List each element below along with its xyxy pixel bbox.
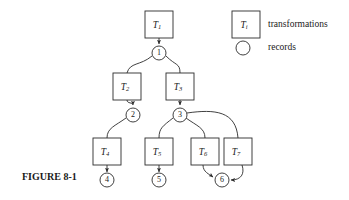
transformation-flow-diagram: T1 T2 T3 T4 T5: [0, 0, 349, 200]
legend-record-text: records: [268, 42, 296, 52]
record-node-3[interactable]: 3: [173, 108, 187, 122]
record-node-2[interactable]: 2: [126, 108, 140, 122]
legend-box-sublabel: i: [246, 24, 248, 31]
record-4-label: 4: [105, 175, 109, 184]
transformation-node-t7[interactable]: T7: [224, 138, 252, 165]
figure-caption: FIGURE 8-1: [22, 171, 77, 182]
record-3-label: 3: [178, 110, 182, 119]
record-2-label: 2: [131, 110, 135, 119]
transformation-node-t3[interactable]: T3: [166, 73, 194, 100]
edge-r1-to-t3: [166, 56, 180, 73]
edge-t6-to-r6: [203, 165, 213, 177]
transformation-node-t1[interactable]: T1: [145, 11, 173, 38]
t1-sublabel: 1: [158, 24, 161, 31]
record-6-label: 6: [220, 175, 224, 184]
record-node-1[interactable]: 1: [152, 46, 166, 60]
edge-r3-to-t6: [186, 118, 205, 138]
record-node-6[interactable]: 6: [215, 173, 229, 187]
edge-t2-to-r2: [127, 100, 133, 105]
t3-sublabel: 3: [178, 86, 183, 93]
edge-r3-to-t7: [187, 111, 238, 138]
transformation-node-t2[interactable]: T2: [113, 73, 141, 100]
legend-transformation-symbol: Ti: [232, 11, 260, 38]
edge-r1-to-t2: [127, 56, 152, 73]
edge-r2-to-t4: [107, 118, 126, 138]
record-node-5[interactable]: 5: [152, 173, 166, 187]
legend-transformation-text: transformations: [268, 19, 328, 29]
transformation-node-t4[interactable]: T4: [93, 138, 121, 165]
edges-group: [107, 38, 243, 180]
legend: Ti transformations records: [232, 11, 328, 55]
edge-t7-to-r6: [231, 165, 243, 180]
transformation-node-t6[interactable]: T6: [191, 138, 219, 165]
edge-r3-to-t5: [159, 118, 173, 138]
record-1-label: 1: [157, 48, 161, 57]
legend-record-symbol: [236, 41, 250, 55]
record-5-label: 5: [157, 175, 161, 184]
figure-container: T1 T2 T3 T4 T5: [0, 0, 349, 200]
record-node-4[interactable]: 4: [100, 173, 114, 187]
transformation-node-t5[interactable]: T5: [145, 138, 173, 165]
